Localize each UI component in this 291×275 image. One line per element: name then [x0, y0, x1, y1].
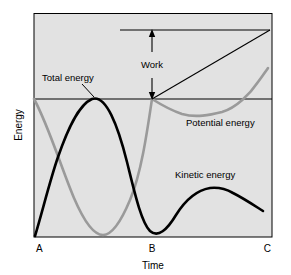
energy-time-chart: Work Total energy Potential energy Kinet… [0, 0, 291, 275]
x-tick-label-c: C [264, 243, 271, 254]
potential-energy-label: Potential energy [186, 117, 255, 128]
chart-svg: Work Total energy Potential energy Kinet… [0, 0, 291, 275]
y-axis-title: Energy [13, 109, 24, 141]
work-label: Work [141, 59, 163, 70]
total-energy-label: Total energy [42, 72, 94, 83]
x-axis-title: Time [142, 260, 164, 271]
x-tick-label-b: B [149, 243, 156, 254]
kinetic-energy-label: Kinetic energy [175, 169, 235, 180]
x-tick-label-a: A [36, 243, 43, 254]
